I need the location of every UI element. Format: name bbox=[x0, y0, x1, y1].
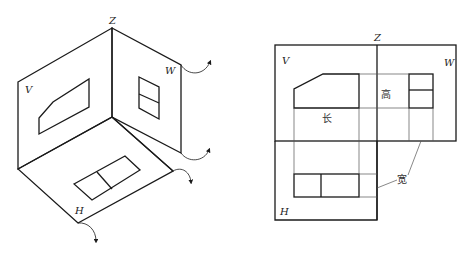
projection-figure: Z V W H bbox=[0, 0, 468, 253]
v-projection-shape bbox=[39, 79, 89, 134]
rotation-arrow-icon bbox=[78, 223, 96, 241]
unfolded-views: Z V W H 长 高 宽 bbox=[275, 32, 456, 220]
rotation-arrow-icon bbox=[173, 169, 191, 182]
label-w: W bbox=[444, 57, 455, 68]
dimension-height-label: 高 bbox=[381, 88, 391, 100]
projection-lines bbox=[294, 74, 433, 197]
isometric-planes: Z V W H bbox=[18, 15, 210, 241]
rotation-arrow-icon bbox=[181, 150, 209, 160]
side-view-shape bbox=[409, 74, 433, 108]
dimension-width-label: 宽 bbox=[397, 173, 407, 185]
front-view-shape bbox=[294, 74, 359, 108]
w-plane bbox=[112, 28, 181, 153]
w-projection-shape bbox=[139, 77, 159, 119]
label-z: Z bbox=[108, 15, 117, 26]
dimension-length-label: 长 bbox=[322, 113, 332, 124]
v-plane bbox=[18, 28, 112, 169]
rotation-arrow-icon bbox=[181, 62, 210, 73]
label-v: V bbox=[25, 84, 34, 95]
top-view-shape bbox=[294, 174, 359, 197]
h-frame bbox=[275, 141, 377, 220]
h-projection-shape bbox=[74, 156, 140, 200]
label-h: H bbox=[279, 206, 289, 217]
label-h: H bbox=[74, 205, 84, 216]
vw-frame bbox=[275, 45, 456, 141]
label-w: W bbox=[165, 65, 176, 76]
label-z: Z bbox=[373, 32, 382, 43]
label-v: V bbox=[282, 55, 291, 66]
